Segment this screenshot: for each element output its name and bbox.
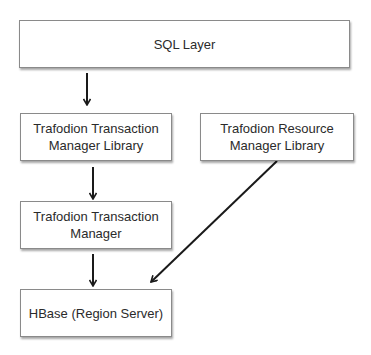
node-sql-layer: SQL Layer [19, 20, 350, 68]
node-label: SQL Layer [154, 36, 216, 53]
node-transaction-manager-library: Trafodion Transaction Manager Library [20, 113, 172, 161]
node-label-line: Manager [33, 225, 158, 242]
node-label-line: Manager Library [33, 137, 158, 154]
node-transaction-manager: Trafodion Transaction Manager [20, 201, 172, 249]
node-label-line: Trafodion Resource [220, 120, 334, 137]
node-resource-manager-library: Trafodion Resource Manager Library [200, 113, 354, 161]
node-label: HBase (Region Server) [29, 305, 163, 322]
node-label-line: Trafodion Transaction [33, 120, 158, 137]
node-label-line: Manager Library [220, 137, 334, 154]
node-label-line: Trafodion Transaction [33, 208, 158, 225]
node-hbase-region-server: HBase (Region Server) [20, 289, 172, 337]
